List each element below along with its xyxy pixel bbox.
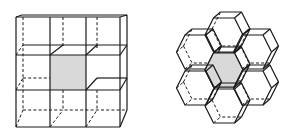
cube-grid-panel — [16, 15, 127, 127]
hex-prism-panel — [177, 12, 279, 123]
hex-prism-center — [205, 47, 250, 87]
hex-prism-highlighted-cell — [205, 53, 243, 87]
hex-prism-bottom — [205, 83, 250, 123]
hex-prism-upper-right — [234, 29, 279, 69]
figure — [0, 0, 299, 136]
cube-grid-highlighted-cell — [50, 55, 86, 90]
